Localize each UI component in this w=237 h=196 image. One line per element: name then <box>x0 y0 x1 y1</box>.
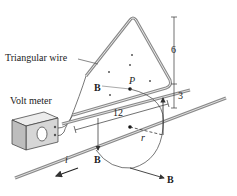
volt-meter-label: Volt meter <box>10 95 52 106</box>
dim-12-label: 12 <box>113 107 123 118</box>
triangular-wire-label: Triangular wire <box>5 52 68 63</box>
diagram-canvas: Triangular wire Volt meter B P B B i r 1… <box>0 0 237 196</box>
meter-terminal-2 <box>54 134 56 136</box>
dim-tick-12-right <box>167 100 169 107</box>
meter-dial <box>37 127 47 141</box>
field-arrow-right <box>130 168 164 178</box>
dim-3-label: 3 <box>178 90 183 101</box>
field-b-down-label: B <box>94 154 101 165</box>
dim-6-label: 6 <box>171 44 176 55</box>
current-i-label: i <box>65 154 68 165</box>
field-b-right-label: B <box>167 174 174 185</box>
volt-meter <box>12 112 58 150</box>
label-pointer-line <box>78 59 98 64</box>
field-b-inside-label: B <box>94 82 101 93</box>
point-p-label: P <box>128 75 135 86</box>
meter-terminal-1 <box>54 126 56 128</box>
b-pointer-line <box>102 86 130 89</box>
current-arrow <box>56 168 78 176</box>
radius-r-label: r <box>141 132 145 143</box>
